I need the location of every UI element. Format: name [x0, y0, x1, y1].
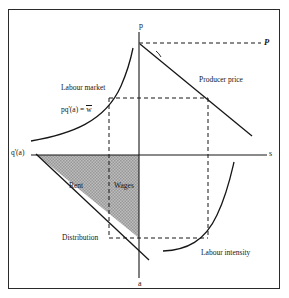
- axis-label-s: s: [269, 150, 272, 158]
- label-distribution: Distribution: [62, 234, 98, 242]
- label-labour-market: Labour market: [61, 84, 105, 92]
- label-producer-price: Producer price: [199, 76, 243, 84]
- figure-root: p a s q'(a) P Producer price Labour mark…: [0, 0, 289, 298]
- diagram-canvas: [9, 10, 279, 288]
- wage-condition-text: pq'(a) =: [61, 105, 86, 114]
- angle-arc-icon: [156, 51, 161, 57]
- axis-label-a: a: [138, 280, 142, 288]
- labour-market-curve: [31, 48, 133, 141]
- wage-condition-wbar: w: [86, 105, 91, 114]
- axis-label-q-prime-a: q'(a): [11, 149, 24, 157]
- label-wages: Wages: [114, 182, 134, 190]
- figure-frame: p a s q'(a) P Producer price Labour mark…: [8, 9, 280, 289]
- label-price-level-P: P: [264, 38, 269, 47]
- label-wage-condition: pq'(a) = w: [61, 105, 92, 114]
- axis-label-p: p: [139, 22, 143, 30]
- producer-price-curve: [140, 44, 252, 136]
- label-labour-intensity: Labour intensity: [201, 249, 250, 257]
- rent-region: [37, 155, 139, 238]
- label-rent: Rent: [69, 182, 83, 190]
